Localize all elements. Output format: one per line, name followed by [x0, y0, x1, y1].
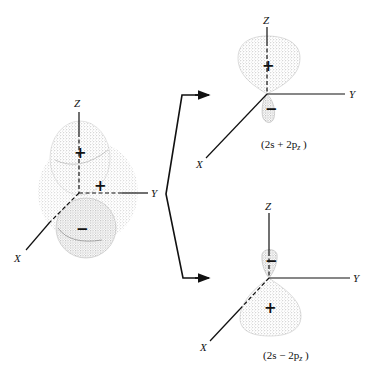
hybrid-orbital-plus: Z Y X + − (2s + 2pz ) — [195, 14, 357, 170]
x-axis — [26, 222, 50, 250]
z-axis-label: Z — [263, 14, 270, 26]
caption-minus: (2s − 2pz ) — [263, 349, 309, 363]
plus-sign-upper: + — [74, 144, 87, 162]
z-axis-label: Z — [74, 97, 81, 109]
minus-sign: − — [265, 252, 278, 270]
caption-plus: (2s + 2pz ) — [261, 138, 307, 152]
minus-sign-lower: − — [76, 220, 89, 238]
branch-bracket — [166, 95, 209, 278]
left-orbital-group: Z Y X + + − — [13, 97, 159, 264]
x-axis — [206, 94, 267, 158]
minus-sign: − — [265, 100, 278, 118]
x-axis-label: X — [199, 341, 208, 353]
plus-sign: + — [264, 299, 277, 317]
z-axis-label: Z — [265, 200, 272, 212]
y-axis-label: Y — [349, 88, 357, 100]
sp-hybrid-orbital-diagram: Z Y X + + − Z Y X + − (2s + 2pz ) Z — [0, 0, 372, 379]
y-axis-label: Y — [353, 272, 361, 284]
x-axis-label: X — [195, 158, 204, 170]
plus-sign: + — [262, 57, 275, 75]
y-axis-label: Y — [151, 187, 159, 199]
hybrid-orbital-minus: Z Y X − + (2s − 2pz ) — [199, 200, 361, 363]
x-axis — [210, 309, 240, 341]
x-axis-label: X — [13, 252, 22, 264]
plus-sign-middle: + — [94, 177, 107, 195]
